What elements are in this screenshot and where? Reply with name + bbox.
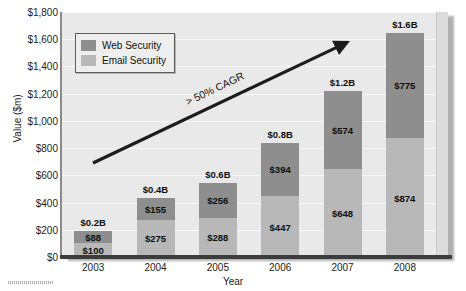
legend-swatch-web-security [81, 40, 96, 51]
legend-label-email-security: Email Security [102, 55, 166, 66]
y-axis-tick-label: $400 [6, 197, 58, 208]
y-axis-tick-label: $1,800 [6, 7, 58, 18]
y-axis-tick-label: $1,600 [6, 34, 58, 45]
x-axis-tick-label: 2007 [331, 262, 353, 273]
bar-group: $100$88$0.2B [74, 231, 112, 257]
x-axis-tick-label: 2006 [269, 262, 291, 273]
bar-value-label-email-security: $874 [386, 192, 424, 203]
bar-group: $447$394$0.8B [261, 143, 299, 257]
y-axis-tick-label: $600 [6, 170, 58, 181]
bar-group: $275$155$0.4B [137, 198, 175, 257]
bar-value-label-email-security: $447 [261, 221, 299, 232]
x-axis-line [60, 255, 452, 259]
scan-artifact-dotted-line [8, 281, 54, 284]
legend-item-email-security: Email Security [81, 53, 166, 68]
x-axis-tick-label: 2008 [394, 262, 416, 273]
x-axis-tick-label: 2003 [82, 262, 104, 273]
chart-legend: Web Security Email Security [75, 33, 175, 73]
y-axis-tick-label: $0 [6, 252, 58, 263]
y-axis-ticks: $0$200$400$600$800$1,000$1,200$1,400$1,6… [0, 0, 58, 291]
legend-label-web-security: Web Security [102, 40, 161, 51]
y-axis-line [60, 12, 62, 257]
bar-total-label: $1.2B [316, 77, 370, 88]
bar-value-label-web-security: $88 [74, 232, 112, 243]
legend-item-web-security: Web Security [81, 38, 166, 53]
bar-value-label-web-security: $775 [386, 80, 424, 91]
y-axis-title: Value ($m) [12, 74, 23, 164]
x-axis-tick-label: 2004 [144, 262, 166, 273]
bar-value-label-email-security: $288 [199, 232, 237, 243]
bar-total-label: $0.2B [66, 217, 120, 228]
legend-swatch-email-security [81, 55, 96, 66]
bar-total-label: $0.4B [129, 184, 183, 195]
bar-total-label: $1.6B [378, 19, 432, 30]
bar-value-label-web-security: $155 [137, 204, 175, 215]
bar-total-label: $0.6B [191, 169, 245, 180]
bar-value-label-email-security: $275 [137, 233, 175, 244]
bar-group: $288$256$0.6B [199, 183, 237, 257]
bar-total-label: $0.8B [253, 129, 307, 140]
bar-value-label-email-security: $648 [324, 207, 362, 218]
y-axis-tick-label: $1,400 [6, 61, 58, 72]
y-axis-tick-label: $200 [6, 224, 58, 235]
bar-value-label-web-security: $256 [199, 195, 237, 206]
bar-group: $874$775$1.6B [386, 33, 424, 257]
x-axis-tick-label: 2005 [207, 262, 229, 273]
bar-value-label-web-security: $574 [324, 124, 362, 135]
chart-container: $100$88$0.2B$275$155$0.4B$288$256$0.6B$4… [0, 0, 466, 291]
bar-value-label-web-security: $394 [261, 164, 299, 175]
bar-group: $648$574$1.2B [324, 91, 362, 257]
x-axis-title: Year [0, 276, 466, 287]
